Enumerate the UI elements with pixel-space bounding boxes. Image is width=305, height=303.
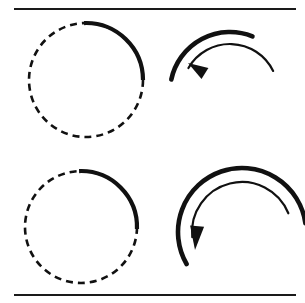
figure-root [0,0,305,303]
solid-highlight-arc [84,23,143,80]
panel-small-rotation-circle [29,23,143,137]
panel-small-rotation-arrow [171,32,273,80]
panel-large-rotation-circle [25,171,137,283]
solid-highlight-arc [79,171,137,229]
figure-canvas [0,0,305,303]
panel-large-rotation-arrow [178,168,305,264]
thick-outer-arc [171,32,252,80]
thin-inner-arc [192,182,288,237]
arrow-head [188,63,208,79]
